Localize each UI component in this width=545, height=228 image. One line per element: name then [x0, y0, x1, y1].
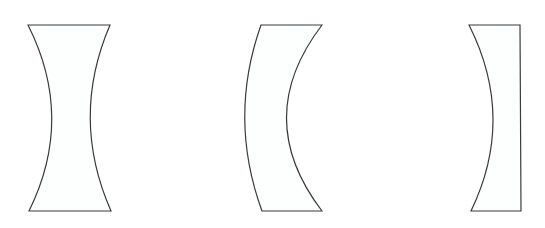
biconcave-lens [28, 25, 111, 211]
lens-diagram [0, 0, 545, 228]
plano-concave-lens [469, 25, 521, 211]
concave-meniscus-lens [245, 25, 322, 211]
